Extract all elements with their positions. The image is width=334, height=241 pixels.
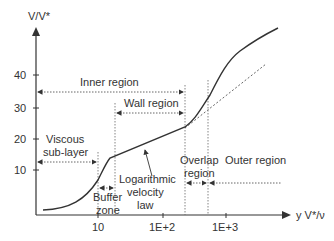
y-tick-30: 30 xyxy=(14,102,26,114)
overlap-label-1: Overlap xyxy=(180,154,219,166)
y-tick-10: 10 xyxy=(14,164,26,176)
x-axis xyxy=(36,211,291,219)
buffer-label-2: zone xyxy=(96,204,120,216)
log-law-extension-line xyxy=(185,64,266,128)
log-law-label-1: Logarithmic xyxy=(119,173,176,185)
outer-region-label: Outer region xyxy=(225,154,286,166)
velocity-profile-diagram: V/V* y V*/ν 40 30 20 10 10 1E+2 1E+3 Inn… xyxy=(0,0,334,241)
y-tick-40: 40 xyxy=(14,69,26,81)
overlap-label-2: region xyxy=(184,167,215,179)
viscous-label-1: Viscous xyxy=(46,133,85,145)
log-law-label-3: law xyxy=(137,199,154,211)
x-tick-1e3: 1E+3 xyxy=(212,221,238,233)
x-axis-arrow-icon xyxy=(282,211,291,219)
buffer-label-1: Buffer xyxy=(93,191,122,203)
viscous-label-2: sub-layer xyxy=(43,146,89,158)
log-law-label-2: velocity xyxy=(127,186,164,198)
inner-region-label: Inner region xyxy=(80,76,139,88)
wall-region-label: Wall region xyxy=(124,97,179,109)
y-axis xyxy=(32,27,40,215)
y-tick-20: 20 xyxy=(14,133,26,145)
x-tick-1e2: 1E+2 xyxy=(149,221,175,233)
y-axis-arrow-icon xyxy=(32,27,40,36)
x-axis-label: y V*/ν xyxy=(296,209,325,221)
y-axis-label: V/V* xyxy=(28,10,51,22)
x-tick-10: 10 xyxy=(92,221,104,233)
